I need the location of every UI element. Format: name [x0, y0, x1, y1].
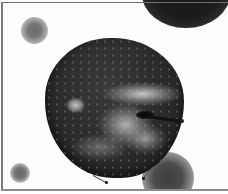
anchor-handle-left[interactable] [105, 181, 108, 184]
bottom-left-blur-sphere [10, 163, 30, 183]
top-left-blur-sphere [21, 17, 48, 44]
photo-canvas [0, 0, 228, 194]
anchor-handle-right[interactable] [142, 177, 145, 180]
top-right-dark-sphere [142, 0, 228, 28]
frame-left-edge [1, 2, 3, 191]
apple-stem-tip [180, 119, 184, 123]
below-frame-margin [0, 191, 228, 194]
frame-top-edge [1, 2, 228, 3]
apple-speckle-texture [45, 38, 184, 178]
apple [45, 38, 184, 178]
